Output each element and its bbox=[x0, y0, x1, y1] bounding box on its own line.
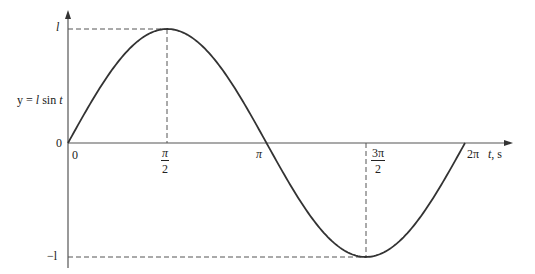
y-tick-min: −l bbox=[47, 250, 57, 262]
y-tick-zero: 0 bbox=[56, 137, 62, 149]
function-label: y = l sin t bbox=[17, 94, 62, 106]
func-eq: = bbox=[23, 93, 36, 107]
x-tick-pi-half-num: π bbox=[161, 147, 169, 161]
x-axis-arrow-icon bbox=[504, 140, 513, 146]
y-axis-arrow-icon bbox=[65, 10, 71, 19]
x-tick-pi: π bbox=[256, 148, 262, 160]
x-tick-pi-half-den: 2 bbox=[162, 161, 168, 175]
x-tick-three-pi-half-num: 3π bbox=[371, 147, 385, 161]
x-axis-unit: , s bbox=[491, 147, 502, 161]
func-t: t bbox=[59, 93, 62, 107]
x-axis-label: t, s bbox=[488, 148, 502, 160]
sine-wave-chart: l 0 −l y = l sin t 0 π 2 π 3π 2 2π t, s bbox=[0, 0, 535, 274]
chart-canvas bbox=[0, 0, 535, 274]
x-tick-two-pi: 2π bbox=[467, 148, 479, 160]
x-tick-pi-half: π 2 bbox=[161, 147, 169, 175]
x-tick-three-pi-half-den: 2 bbox=[375, 161, 381, 175]
x-tick-zero: 0 bbox=[72, 149, 78, 161]
y-tick-max: l bbox=[56, 21, 59, 33]
func-sin: sin bbox=[39, 93, 59, 107]
x-tick-three-pi-half: 3π 2 bbox=[371, 147, 385, 175]
